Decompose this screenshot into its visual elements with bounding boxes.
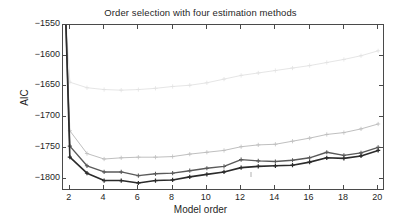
series-method-2-medium-gray — [66, 25, 381, 161]
y-tick-mark — [62, 147, 66, 148]
data-point-marker — [205, 150, 209, 154]
x-tick-mark — [274, 185, 275, 189]
data-point-marker — [222, 164, 226, 168]
x-tick-mark-top — [274, 25, 275, 29]
x-tick-mark-top — [172, 25, 173, 29]
chart-figure: Order selection with four estimation met… — [0, 0, 401, 223]
x-tick-label: 10 — [194, 192, 218, 202]
data-point-marker — [273, 142, 277, 146]
y-tick-mark — [62, 178, 66, 179]
data-point-marker — [102, 87, 106, 91]
x-tick-mark-top — [206, 25, 207, 29]
data-point-marker — [342, 57, 346, 61]
data-point-marker — [222, 148, 226, 152]
data-point-marker — [308, 136, 312, 140]
data-point-marker — [222, 77, 226, 81]
scan-artifact — [250, 172, 252, 177]
data-point-marker — [308, 156, 312, 160]
x-tick-label: 18 — [331, 192, 355, 202]
x-tick-mark — [172, 185, 173, 189]
data-point-marker — [376, 49, 380, 53]
x-tick-label: 16 — [297, 192, 321, 202]
y-tick-mark — [62, 85, 66, 86]
data-point-marker — [290, 163, 294, 167]
y-tick-mark-right — [379, 55, 383, 56]
data-point-marker — [239, 158, 243, 162]
data-point-marker — [325, 132, 329, 136]
series-method-1-light-gray — [66, 25, 381, 92]
y-tick-mark-right — [379, 116, 383, 117]
data-point-marker — [205, 166, 209, 170]
series-line — [66, 25, 379, 176]
series-line — [66, 25, 379, 90]
x-tick-mark — [69, 185, 70, 189]
x-axis-label: Model order — [0, 204, 401, 215]
x-tick-mark — [206, 185, 207, 189]
data-point-marker — [153, 155, 157, 159]
x-tick-mark-top — [377, 25, 378, 29]
data-point-marker — [102, 157, 106, 161]
data-point-marker — [359, 154, 363, 158]
data-point-marker — [325, 60, 329, 64]
data-point-marker — [188, 175, 192, 179]
y-tick-label: −1800 — [22, 172, 60, 182]
data-point-marker — [136, 155, 140, 159]
x-tick-label: 6 — [125, 192, 149, 202]
data-point-marker — [376, 122, 380, 126]
x-tick-label: 2 — [57, 192, 81, 202]
data-point-marker — [359, 54, 363, 58]
x-tick-label: 14 — [262, 192, 286, 202]
y-tick-label: −1650 — [22, 79, 60, 89]
x-tick-mark — [137, 185, 138, 189]
data-point-marker — [119, 178, 123, 182]
data-point-marker — [290, 139, 294, 143]
data-point-marker — [171, 84, 175, 88]
data-point-marker — [102, 170, 106, 174]
data-point-marker — [119, 156, 123, 160]
x-tick-label: 12 — [228, 192, 252, 202]
data-point-marker — [171, 154, 175, 158]
y-tick-mark-right — [379, 24, 383, 25]
data-point-marker — [153, 178, 157, 182]
series-method-4-black — [66, 25, 381, 185]
x-tick-mark-top — [343, 25, 344, 29]
data-point-marker — [153, 172, 157, 176]
y-tick-label: −1600 — [22, 49, 60, 59]
data-point-marker — [136, 87, 140, 91]
data-point-marker — [273, 159, 277, 163]
plot-canvas — [63, 25, 384, 190]
data-point-marker — [153, 86, 157, 90]
plot-area — [62, 24, 384, 190]
data-point-marker — [239, 166, 243, 170]
x-tick-mark — [343, 185, 344, 189]
data-point-marker — [205, 172, 209, 176]
data-point-marker — [119, 88, 123, 92]
series-method-3-dark-gray — [66, 25, 381, 178]
data-point-marker — [85, 86, 89, 90]
series-line — [66, 25, 379, 183]
data-point-marker — [256, 159, 260, 163]
x-tick-mark — [377, 185, 378, 189]
x-tick-mark-top — [309, 25, 310, 29]
data-point-marker — [376, 148, 380, 152]
data-point-marker — [308, 63, 312, 67]
data-point-marker — [359, 127, 363, 131]
data-point-marker — [205, 81, 209, 85]
y-tick-mark-right — [379, 147, 383, 148]
data-point-marker — [136, 174, 140, 178]
y-tick-mark — [62, 24, 66, 25]
y-tick-mark-right — [379, 85, 383, 86]
data-point-marker — [188, 169, 192, 173]
x-tick-mark — [309, 185, 310, 189]
y-axis-tick-labels: −1550−1600−1650−1700−1750−1800 — [18, 0, 60, 223]
x-tick-mark-top — [137, 25, 138, 29]
x-tick-mark-top — [69, 25, 70, 29]
chart-title: Order selection with four estimation met… — [0, 7, 401, 18]
series-line — [66, 25, 379, 159]
data-point-marker — [188, 152, 192, 156]
data-point-marker — [239, 145, 243, 149]
x-tick-mark-top — [240, 25, 241, 29]
data-point-marker — [256, 71, 260, 75]
data-point-marker — [290, 66, 294, 70]
x-tick-label: 20 — [365, 192, 389, 202]
